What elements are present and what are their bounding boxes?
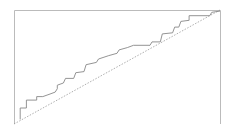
plot-frame — [15, 11, 221, 125]
diagonal-reference-line — [14, 10, 220, 124]
chart — [0, 0, 231, 130]
